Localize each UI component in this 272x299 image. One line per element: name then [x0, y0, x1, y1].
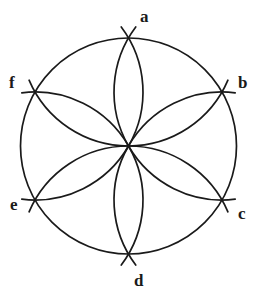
- vertex-label-f: f: [9, 74, 15, 91]
- petal-arc-c: [114, 92, 235, 265]
- vertex-label-a: a: [140, 8, 149, 25]
- rosette-figure: a b c d e f: [0, 0, 272, 299]
- petal-arc-d: [29, 146, 228, 212]
- vertex-label-d: d: [134, 272, 143, 289]
- petal-arc-f: [22, 27, 143, 200]
- petal-arc-e: [22, 92, 143, 265]
- vertex-label-e: e: [10, 196, 18, 213]
- rosette-drawing: [0, 0, 272, 299]
- petal-arc-group: [22, 27, 235, 265]
- petal-arc-b: [114, 27, 235, 200]
- vertex-label-c: c: [238, 205, 246, 222]
- petal-arc-a: [29, 80, 228, 146]
- vertex-label-b: b: [238, 74, 247, 91]
